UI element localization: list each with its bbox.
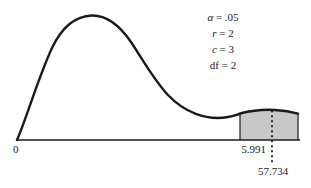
rejection-region-shading [240,110,298,140]
annotation-alpha: α = .05 [186,9,260,25]
annotation-r-value: = 2 [217,27,234,39]
annotation-alpha-value: = .05 [213,11,238,23]
critical-value-label: 5.991 [222,143,266,155]
annotation-df-value: = 2 [219,59,236,71]
chart-plot-area [0,0,311,188]
annotation-c-value: = 3 [217,43,234,55]
annotation-columns: c = 3 [186,41,260,57]
axis-origin-label: 0 [13,143,19,155]
annotation-df-symbol: df [210,59,219,71]
parameter-annotations: α = .05 r = 2 c = 3 df = 2 [186,9,260,73]
annotation-rows: r = 2 [186,25,260,41]
chi-square-distribution-figure: α = .05 r = 2 c = 3 df = 2 0 5.991 57.73… [0,0,311,188]
test-statistic-label: 57.734 [245,165,301,177]
annotation-degrees-of-freedom: df = 2 [186,57,260,73]
